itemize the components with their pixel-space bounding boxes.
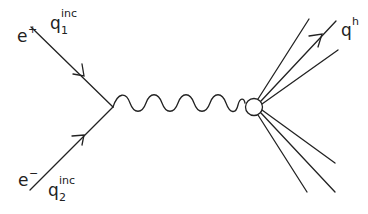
outgoing-jet-4 [262, 110, 335, 163]
outgoing-jet-3 [262, 50, 338, 104]
incoming-positron-line [31, 27, 113, 107]
label-q2-inc: q inc 2 [48, 182, 59, 199]
label-qh: q h [341, 22, 352, 39]
outgoing-jet-6 [261, 113, 335, 192]
label-e-plus: e+ [17, 28, 27, 45]
jet-arrow-icon [309, 34, 322, 47]
label-e-minus: e− [18, 172, 28, 189]
outgoing-jet-1 [258, 19, 309, 99]
photon-propagator [113, 95, 245, 112]
hadronization-blob [246, 99, 263, 116]
label-q1-inc: q inc 1 [50, 15, 61, 32]
outgoing-jet-2 [261, 21, 336, 101]
electron-arrow-icon [72, 135, 84, 145]
